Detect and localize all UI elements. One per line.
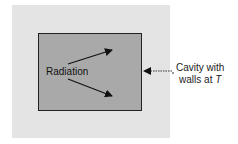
temperature-symbol: T (215, 74, 221, 85)
radiation-arrow-down (68, 79, 112, 96)
radiation-label: Radiation (46, 66, 88, 77)
cavity-label: Cavity with walls at T (176, 62, 224, 86)
cavity-label-line1: Cavity with (176, 62, 224, 74)
cavity-label-line2: walls at T (176, 74, 224, 86)
cavity-label-prefix: walls at (179, 74, 215, 85)
radiation-arrow-up (68, 50, 112, 64)
